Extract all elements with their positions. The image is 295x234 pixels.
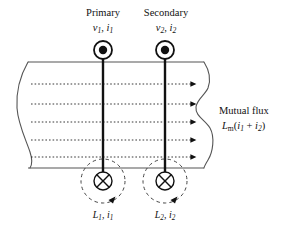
secondary-inductance-label: L2, i2 [155,210,176,223]
core-left-break-edge [17,62,32,168]
dot-in-circle-center [99,46,107,54]
secondary-current-out-of-page-symbol [156,41,174,59]
secondary-current-into-page-symbol [156,172,174,190]
mutual-flux-title-label: Mutual flux [219,105,269,116]
dot-in-circle-center [161,46,169,54]
primary-inductance-label: L1, i1 [93,210,114,223]
mutual-flux-paren-close: ) [262,120,266,131]
secondary-variables-label: v2, i2 [156,22,176,35]
mutual-flux-plus-operator: + [244,120,255,131]
diagram-canvas [0,0,295,234]
mutual-flux-diagram: Primary v1, i1 Secondary v2, i2 Mutual f… [0,0,295,234]
secondary-title-label: Secondary [144,7,188,18]
core-right-break-edge [196,62,213,168]
magnetic-core [17,62,213,168]
primary-i-subscript: 1 [109,26,113,35]
primary-current-out-of-page-symbol [94,41,112,59]
primary-current-into-page-symbol [94,172,112,190]
secondary-inductance-i-subscript: 2 [172,214,176,222]
primary-inductance-i-subscript: 1 [110,214,114,222]
primary-variables-label: v1, i1 [93,22,113,35]
secondary-i-subscript: 2 [172,26,176,35]
mutual-flux-formula-label: Lm(i1 + i2) [222,120,265,133]
primary-title-label: Primary [86,7,120,18]
mutual-flux-lines [31,84,196,157]
